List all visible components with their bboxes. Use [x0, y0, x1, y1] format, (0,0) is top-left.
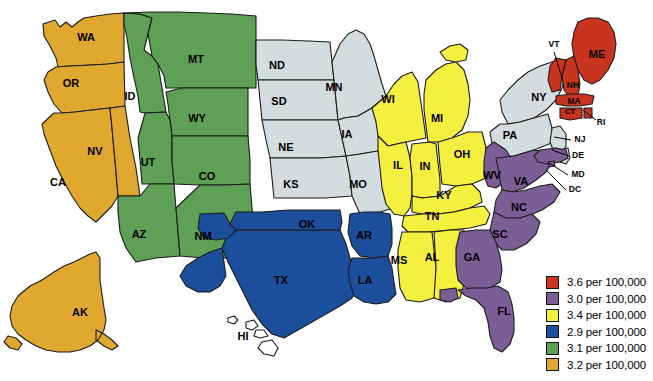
state-label-in: IN: [420, 160, 431, 172]
state-label-co: CO: [199, 170, 216, 182]
state-label-nd: ND: [269, 59, 285, 71]
state-label-wv: WV: [483, 169, 501, 181]
state-ne[interactable]: [262, 120, 346, 158]
state-label-ms: MS: [391, 254, 408, 266]
state-label-ga: GA: [464, 251, 481, 263]
state-label-mo: MO: [349, 178, 367, 190]
state-label-va: VA: [514, 175, 529, 187]
state-label-al: AL: [425, 251, 440, 263]
state-label-hi: HI: [238, 330, 249, 342]
state-label-ma: MA: [567, 96, 580, 106]
state-fl[interactable]: [440, 286, 514, 352]
state-label-ia: IA: [342, 128, 353, 140]
legend-row[interactable]: 3.4 per 100,000: [546, 307, 650, 324]
legend-label: 3.2 per 100,000: [567, 359, 646, 371]
state-label-vt: VT: [549, 39, 561, 49]
legend-label: 3.1 per 100,000: [567, 342, 646, 354]
state-label-sc: SC: [492, 228, 507, 240]
legend-row[interactable]: 3.2 per 100,000: [546, 357, 650, 374]
state-label-ks: KS: [283, 178, 298, 190]
state-ms[interactable]: [398, 232, 436, 302]
legend-swatch-purple: [546, 292, 559, 305]
state-label-mt: MT: [188, 53, 204, 65]
state-label-nj: NJ: [575, 134, 586, 144]
state-ut[interactable]: [138, 112, 174, 184]
state-ks[interactable]: [270, 156, 352, 198]
legend-label: 3.0 per 100,000: [567, 293, 646, 305]
state-label-or: OR: [63, 77, 80, 89]
state-label-pa: PA: [503, 129, 518, 141]
state-label-id: ID: [125, 90, 136, 102]
state-ak[interactable]: [4, 252, 118, 352]
state-label-il: IL: [393, 159, 403, 171]
leader-line-md: [549, 163, 568, 175]
state-ca[interactable]: [42, 108, 118, 222]
state-label-nm: NM: [194, 230, 211, 242]
state-label-wa: WA: [77, 31, 95, 43]
state-label-me: ME: [589, 48, 606, 60]
legend-label: 2.9 per 100,000: [567, 326, 646, 338]
legend-label: 3.6 per 100,000: [567, 276, 646, 288]
map-legend: 3.6 per 100,0003.0 per 100,0003.4 per 10…: [546, 274, 650, 373]
state-label-ny: NY: [531, 91, 547, 103]
legend-swatch-red: [546, 276, 559, 289]
state-label-ne: NE: [278, 141, 293, 153]
state-label-mi: MI: [431, 112, 443, 124]
state-label-la: LA: [358, 274, 373, 286]
state-mi[interactable]: [424, 44, 470, 142]
state-label-wy: WY: [188, 112, 206, 124]
state-label-ct: CT: [565, 107, 576, 116]
legend-swatch-green: [546, 342, 559, 355]
legend-row[interactable]: 3.0 per 100,000: [546, 291, 650, 308]
state-label-tn: TN: [425, 210, 440, 222]
us-choropleth-map-page: WAORCANVAKIDMTWYUTCOAZNMNDSDNEKSMNIAMONY…: [0, 0, 653, 381]
state-label-nc: NC: [511, 201, 527, 213]
state-az[interactable]: [118, 184, 180, 262]
state-label-nv: NV: [87, 145, 103, 157]
state-label-ky: KY: [436, 189, 452, 201]
legend-swatch-orange: [546, 358, 559, 371]
state-label-sd: SD: [271, 95, 286, 107]
state-label-ar: AR: [356, 229, 372, 241]
legend-row[interactable]: 3.1 per 100,000: [546, 340, 650, 357]
state-label-oh: OH: [454, 148, 471, 160]
state-label-ak: AK: [72, 306, 88, 318]
state-label-fl: FL: [497, 305, 511, 317]
legend-swatch-yellow: [546, 309, 559, 322]
state-label-nh: NH: [567, 80, 579, 90]
legend-row[interactable]: 3.6 per 100,000: [546, 274, 650, 291]
legend-label: 3.4 per 100,000: [567, 309, 646, 321]
state-label-az: AZ: [132, 228, 147, 240]
state-label-md: MD: [571, 169, 584, 179]
legend-swatch-blue: [546, 325, 559, 338]
state-label-dc: DC: [569, 184, 581, 194]
state-label-tx: TX: [274, 274, 289, 286]
state-label-ut: UT: [141, 156, 156, 168]
state-label-ca: CA: [50, 176, 66, 188]
state-label-ok: OK: [299, 218, 316, 230]
state-label-de: DE: [572, 150, 584, 160]
state-nd[interactable]: [256, 40, 334, 80]
state-label-ri: RI: [597, 117, 606, 127]
state-wy[interactable]: [166, 88, 248, 136]
state-label-mn: MN: [325, 81, 342, 93]
legend-row[interactable]: 2.9 per 100,000: [546, 324, 650, 341]
state-or[interactable]: [44, 62, 125, 113]
state-label-wi: WI: [381, 93, 394, 105]
